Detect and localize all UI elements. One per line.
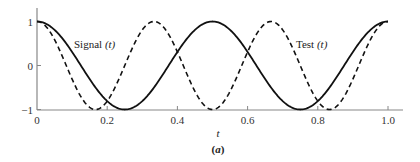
signal-curve (37, 22, 388, 110)
x-tick-label: 0.6 (241, 114, 255, 126)
y-tick-label: 0 (28, 60, 34, 72)
x-tick-label: 0.2 (100, 114, 114, 126)
y-tick-label: 1 (28, 16, 34, 28)
signal-annotation: Signal (t) (74, 38, 116, 51)
x-tick-label: 0.8 (311, 114, 325, 126)
x-tick-label: 1.0 (381, 114, 395, 126)
y-tick-label: −1 (21, 104, 33, 116)
x-axis-label: t (216, 127, 220, 139)
x-tick-label: 0.4 (171, 114, 185, 126)
chart: −101 00.20.40.60.81.0 Signal (t) Test (t… (0, 0, 420, 162)
x-tick-label: 0 (34, 114, 40, 126)
y-ticks: −101 (21, 16, 41, 116)
test-annotation: Test (t) (296, 38, 328, 51)
figure-caption: (a) (212, 143, 225, 156)
x-ticks: 00.20.40.60.81.0 (34, 106, 395, 126)
test-curve (37, 22, 388, 110)
